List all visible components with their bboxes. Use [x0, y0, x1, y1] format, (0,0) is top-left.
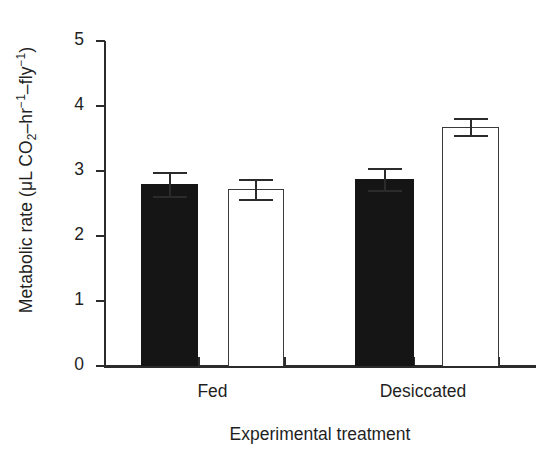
y-axis-tick-label: 5 [56, 31, 84, 49]
metabolic-rate-bar-chart: Metabolic rate (μL CO2–hr−1–fly−1) 01234… [0, 0, 556, 470]
y-axis-title: Metabolic rate (μL CO2–hr−1–fly−1) [14, 10, 44, 350]
error-bar-stem [255, 179, 257, 199]
bar-desiccated-open [442, 127, 499, 366]
bar-fed-filled [141, 184, 198, 366]
error-bar-cap-lower [454, 135, 488, 137]
y-axis-title-fly-exponent: −1 [14, 53, 28, 67]
y-axis-title-suffix: ) [16, 47, 36, 53]
bar-desiccated-filled [355, 179, 414, 366]
y-axis-tick [96, 300, 105, 302]
y-axis-tick [96, 365, 105, 367]
y-axis-title-prefix: Metabolic rate ( [16, 191, 36, 313]
x-axis-title: Experimental treatment [104, 424, 536, 445]
error-bar-cap-lower [153, 196, 187, 198]
y-axis-title-co2-subscript: 2 [25, 134, 39, 141]
y-axis-tick-label: 4 [56, 96, 84, 114]
error-bar-cap-lower [239, 199, 273, 201]
bar-fed-open [228, 189, 284, 366]
error-bar-stem [384, 168, 386, 190]
y-axis-title-hr-exponent: −1 [14, 94, 28, 108]
y-axis-line [104, 41, 106, 368]
y-axis-tick-label: 3 [56, 161, 84, 179]
error-bar-cap-upper [239, 179, 273, 181]
y-axis-tick [96, 235, 105, 237]
y-axis-title-unit: μL CO [16, 140, 36, 191]
error-bar-cap-upper [153, 172, 187, 174]
x-axis-category-label: Fed [197, 381, 227, 402]
error-bar-cap-lower [368, 190, 402, 192]
y-axis-tick [96, 170, 105, 172]
y-axis-tick-label: 1 [56, 291, 84, 309]
error-bar-stem [169, 172, 171, 195]
x-axis-tick [284, 357, 286, 366]
x-axis-category-label: Desiccated [380, 381, 467, 402]
y-axis-title-dash-hr: –hr [16, 108, 36, 134]
error-bar-stem [470, 118, 472, 135]
y-axis-tick-label: 0 [56, 356, 84, 374]
error-bar-cap-upper [454, 118, 488, 120]
error-bar-cap-upper [368, 168, 402, 170]
y-axis-title-dash-fly: –fly [16, 67, 36, 95]
y-axis-tick-label: 2 [56, 226, 84, 244]
x-axis-tick [198, 357, 200, 366]
y-axis-tick [96, 40, 105, 42]
y-axis-tick [96, 105, 105, 107]
